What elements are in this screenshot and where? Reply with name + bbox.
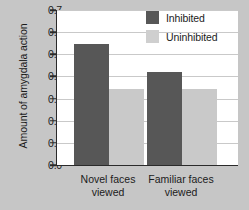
legend: Inhibited Uninhibited (146, 11, 217, 43)
bar (182, 89, 217, 165)
bar (147, 72, 182, 165)
legend-item-uninhibited: Uninhibited (146, 30, 217, 43)
legend-item-inhibited: Inhibited (146, 11, 217, 24)
bar (109, 89, 144, 165)
legend-label-uninhibited: Uninhibited (166, 31, 217, 43)
x-axis-label-line: viewed (121, 186, 241, 199)
x-axis-label-line: Familiar faces (121, 173, 241, 186)
bar-chart: Amount of amygdala action 0.00.10.20.30.… (0, 0, 249, 210)
legend-label-inhibited: Inhibited (166, 12, 205, 24)
legend-swatch-icon-inhibited (146, 11, 159, 24)
legend-swatch-icon-uninhibited (146, 30, 159, 43)
bar (74, 44, 109, 165)
x-axis-label: Familiar facesviewed (121, 173, 241, 199)
